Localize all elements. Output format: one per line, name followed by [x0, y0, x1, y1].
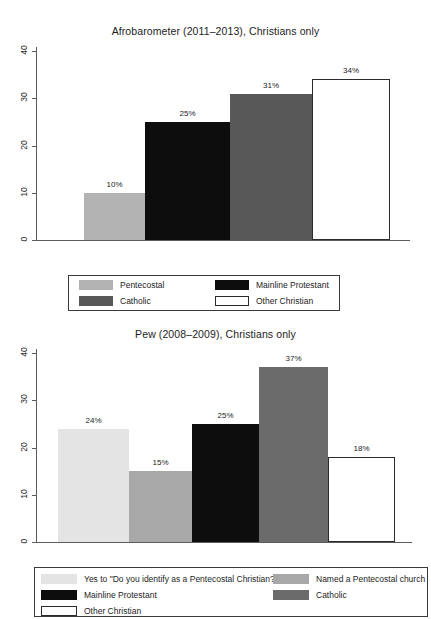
- legend-swatch: [273, 590, 309, 600]
- bar-value-label: 31%: [230, 81, 312, 90]
- legend-item: Mainline Protestant: [41, 590, 157, 600]
- bar: [84, 193, 145, 240]
- bar: [259, 367, 328, 542]
- legend-label: Mainline Protestant: [84, 590, 157, 600]
- plot-area-afrobarometer: 01020304010%25%31%34%: [0, 0, 431, 255]
- plot-area-pew: 01020304024%15%25%37%18%: [0, 320, 431, 558]
- bar: [230, 94, 312, 240]
- bar-value-label: 34%: [312, 66, 390, 75]
- bar-value-label: 37%: [259, 354, 328, 363]
- y-axis-tick-label: 0: [19, 229, 29, 249]
- bar-value-label: 15%: [129, 458, 192, 467]
- legend-swatch: [79, 296, 113, 306]
- legend-label: Other Christian: [84, 606, 141, 616]
- y-axis-tick-label: 20: [19, 135, 29, 155]
- legend-item: Other Christian: [41, 606, 141, 616]
- y-axis-tick-label: 30: [19, 87, 29, 107]
- legend-item: Catholic: [79, 296, 151, 306]
- legend-item: Mainline Protestant: [215, 280, 329, 290]
- y-axis-tick: [32, 448, 36, 449]
- y-axis-tick: [32, 51, 36, 52]
- bar-value-label: 25%: [145, 109, 230, 118]
- legend-pew: Yes to "Do you identify as a Pentecostal…: [34, 567, 428, 617]
- legend-swatch: [79, 280, 113, 290]
- y-axis-tick-label: 40: [19, 40, 29, 60]
- legend-label: Named a Pentecostal church: [316, 574, 425, 584]
- legend-swatch: [41, 574, 77, 584]
- x-axis-line: [36, 542, 412, 543]
- legend-item: Pentecostal: [79, 280, 164, 290]
- bar: [145, 122, 230, 240]
- legend-item: Other Christian: [215, 296, 313, 306]
- legend-swatch: [273, 574, 309, 584]
- y-axis-line: [36, 349, 37, 542]
- legend-swatch: [41, 606, 77, 616]
- legend-item: Named a Pentecostal church: [273, 574, 425, 584]
- bar: [58, 429, 129, 542]
- legend-item: Yes to "Do you identify as a Pentecostal…: [41, 574, 278, 584]
- bar: [312, 79, 390, 240]
- legend-swatch: [215, 296, 249, 306]
- y-axis-tick-label: 40: [19, 342, 29, 362]
- legend-label: Other Christian: [256, 296, 313, 306]
- legend-item: Catholic: [273, 590, 347, 600]
- y-axis-tick: [32, 542, 36, 543]
- legend-label: Catholic: [120, 296, 151, 306]
- legend-swatch: [41, 590, 77, 600]
- chart-afrobarometer: Afrobarometer (2011–2013), Christians on…: [0, 0, 431, 320]
- bar-value-label: 18%: [328, 444, 395, 453]
- y-axis-tick-label: 10: [19, 182, 29, 202]
- x-axis-line: [36, 240, 410, 241]
- y-axis-tick-label: 0: [19, 531, 29, 551]
- legend-label: Pentecostal: [120, 280, 164, 290]
- y-axis-tick: [32, 193, 36, 194]
- bar: [129, 471, 192, 542]
- bar: [328, 457, 395, 542]
- y-axis-tick: [32, 146, 36, 147]
- legend-swatch: [215, 280, 249, 290]
- bar-value-label: 25%: [192, 411, 259, 420]
- legend-label: Catholic: [316, 590, 347, 600]
- y-axis-line: [36, 47, 37, 240]
- y-axis-tick: [32, 240, 36, 241]
- y-axis-tick: [32, 400, 36, 401]
- y-axis-tick: [32, 495, 36, 496]
- legend-label: Mainline Protestant: [256, 280, 329, 290]
- y-axis-tick-label: 10: [19, 484, 29, 504]
- legend-afrobarometer: PentecostalMainline ProtestantCatholicOt…: [68, 275, 340, 311]
- bar: [192, 424, 259, 542]
- y-axis-tick-label: 30: [19, 389, 29, 409]
- chart-pew: Pew (2008–2009), Christians only 0102030…: [0, 320, 431, 619]
- y-axis-tick: [32, 98, 36, 99]
- legend-label: Yes to "Do you identify as a Pentecostal…: [84, 574, 278, 584]
- y-axis-tick-label: 20: [19, 437, 29, 457]
- bar-value-label: 24%: [58, 416, 129, 425]
- bar-value-label: 10%: [84, 180, 145, 189]
- y-axis-tick: [32, 353, 36, 354]
